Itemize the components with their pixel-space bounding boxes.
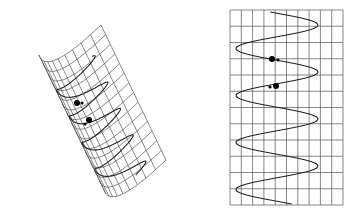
surface-line-across [85, 121, 147, 158]
particle-dot [269, 56, 275, 62]
flat-grid-panel [230, 10, 343, 205]
particle-dot [273, 83, 279, 89]
particle-dot-small [80, 101, 83, 104]
particle-dot-small [268, 85, 271, 88]
surface-line-along [58, 59, 123, 194]
particle-dot [86, 117, 92, 123]
curved-surface-panel [39, 25, 166, 197]
surface-trajectory [57, 56, 146, 177]
diagram-canvas [0, 0, 357, 217]
surface-line-along [101, 25, 166, 160]
surface-line-across [53, 54, 115, 91]
particle-dot-small [276, 58, 279, 61]
surface-line-across [62, 73, 124, 110]
particle-dot-small [83, 122, 86, 125]
sine-trajectory [236, 12, 318, 204]
surface-line-across [44, 35, 106, 72]
surface-line-across [39, 25, 101, 62]
surface-line-along [41, 59, 106, 194]
surface-line-across [58, 64, 120, 101]
particle-dot [74, 100, 80, 106]
